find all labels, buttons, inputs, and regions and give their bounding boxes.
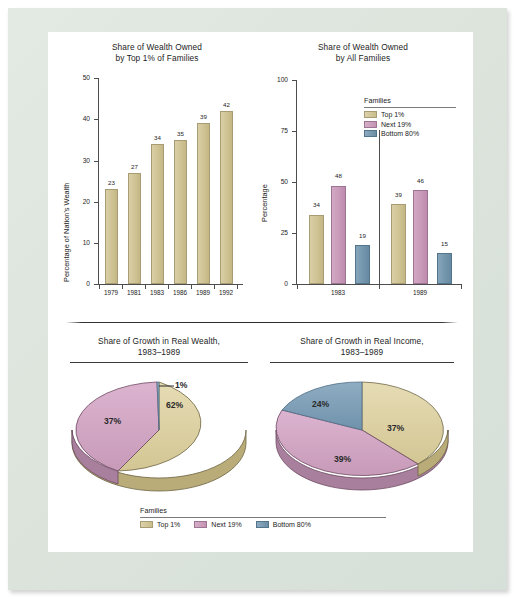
chart2-bar-1989-bottom80[interactable] [437, 253, 452, 284]
chart2-xlabel-1989: 1989 [404, 289, 436, 296]
pie-growth-real-income: 37% 39% 24% [266, 362, 458, 498]
pie2-label-37: 37% [387, 423, 404, 433]
bottom-legend-item-top1[interactable]: Top 1% [140, 521, 180, 528]
pie1-label-1: 1% [175, 380, 187, 390]
chart2-ytick-100 [292, 80, 296, 81]
chart2-xtick-start [297, 285, 298, 289]
chart2-legend-label-top1: Top 1% [381, 111, 404, 118]
pie2-svg [266, 362, 458, 498]
chart1-ytick-20 [94, 202, 98, 203]
legend-swatch-next19-icon [364, 121, 377, 128]
chart2-legend-label-next19: Next 19% [381, 121, 411, 128]
chart1-bar-1981[interactable] [128, 173, 141, 284]
chart1-value-1979: 23 [102, 179, 121, 186]
chart2-bar-1983-bottom80[interactable] [355, 245, 370, 284]
chart1-title-line1: Share of Wealth Owned [62, 42, 252, 53]
chart2-legend: Families Top 1% Next 19% Bottom 80% [364, 96, 456, 140]
bottom-legend-item-next19[interactable]: Next 19% [194, 521, 241, 528]
chart1-ytick-label-40: 40 [70, 115, 90, 122]
pie1-label-62: 62% [166, 400, 183, 410]
chart2-ytick-50 [292, 182, 296, 183]
legend-swatch-bottom80-icon [256, 521, 269, 528]
chart1-value-1981: 27 [125, 163, 144, 170]
chart1-ytick-10 [94, 243, 98, 244]
chart2-title-line2: by All Families [268, 53, 458, 64]
pie-growth-real-wealth: 62% 37% 1% [62, 362, 256, 498]
legend-swatch-top1-icon [364, 111, 377, 118]
chart1-ytick-label-10: 10 [70, 239, 90, 246]
chart-wealth-top1-percent: Share of Wealth Owned by Top 1% of Famil… [54, 42, 252, 310]
figure-root: Share of Wealth Owned by Top 1% of Famil… [0, 0, 515, 599]
legend-swatch-bottom80-icon [364, 130, 377, 137]
pie1-svg [62, 362, 256, 498]
chart1-ytick-label-20: 20 [70, 198, 90, 205]
chart1-bar-1979[interactable] [105, 189, 118, 284]
chart2-legend-label-bottom80: Bottom 80% [381, 130, 419, 137]
chart2-ytick-75 [292, 131, 296, 132]
chart2-bar-1989-next19[interactable] [413, 190, 428, 284]
chart2-ytick-0 [292, 284, 296, 285]
bottom-legend-label-top1: Top 1% [157, 521, 180, 528]
chart1-bar-1992[interactable] [220, 111, 233, 284]
chart2-ytick-label-75: 75 [268, 127, 288, 134]
chart2-value-1983-bottom80: 19 [352, 232, 373, 239]
chart1-value-1989: 39 [194, 113, 213, 120]
chart1-bar-1983[interactable] [151, 144, 164, 284]
pie2-label-24: 24% [312, 399, 329, 409]
chart2-xlabel-1983: 1983 [322, 289, 354, 296]
chart2-value-1989-next19: 46 [410, 177, 431, 184]
bottom-legend-label-next19: Next 19% [211, 521, 241, 528]
chart2-title-line1: Share of Wealth Owned [268, 42, 458, 53]
chart1-xlabel-1992: 1992 [210, 289, 242, 296]
bottom-legend-label-bottom80: Bottom 80% [273, 521, 311, 528]
pie1-title-line2: 1983–1989 [64, 347, 254, 358]
chart2-bar-1989-top1[interactable] [391, 204, 406, 284]
chart2-bar-1983-next19[interactable] [331, 186, 346, 284]
chart1-value-1986: 35 [171, 130, 190, 137]
chart1-ytick-label-50: 50 [70, 74, 90, 81]
bottom-legend-item-bottom80[interactable]: Bottom 80% [256, 521, 311, 528]
pie1-title-line1: Share of Growth in Real Wealth, [64, 336, 254, 347]
chart1-value-1983: 34 [148, 134, 167, 141]
chart2-ytick-25 [292, 233, 296, 234]
chart2-ytick-label-0: 0 [268, 280, 288, 287]
chart1-plot-area: 23 27 34 35 39 42 [99, 78, 243, 284]
chart2-value-1989-bottom80: 15 [434, 240, 455, 247]
chart2-ytick-label-25: 25 [268, 229, 288, 236]
chart2-value-1983-top1: 34 [306, 201, 327, 208]
chart2-value-1983-next19: 48 [328, 172, 349, 179]
chart1-bar-1986[interactable] [174, 140, 187, 284]
chart2-xtick-mid [379, 285, 380, 289]
chart2-legend-item-bottom80[interactable]: Bottom 80% [364, 130, 456, 137]
chart1-ytick-label-0: 0 [70, 280, 90, 287]
bottom-legend-title: Families [140, 506, 386, 518]
chart2-xtick-end [461, 285, 462, 289]
chart2-group-separator [379, 130, 380, 284]
chart1-ytick-50 [94, 78, 98, 79]
chart2-y-axis-title: Percentage [260, 184, 269, 222]
pie2-title-line2: 1983–1989 [264, 347, 460, 358]
chart1-ytick-0 [94, 284, 98, 285]
chart1-ytick-30 [94, 161, 98, 162]
figure-page: Share of Wealth Owned by Top 1% of Famil… [48, 32, 473, 552]
chart2-ytick-label-100: 100 [268, 76, 288, 83]
chart1-x-axis-line [98, 284, 243, 285]
legend-swatch-next19-icon [194, 521, 207, 528]
chart2-title: Share of Wealth Owned by All Families [268, 42, 458, 64]
legend-swatch-top1-icon [140, 521, 153, 528]
chart1-title-line2: by Top 1% of Families [62, 53, 252, 64]
bottom-legend-row: Top 1% Next 19% Bottom 80% [140, 521, 386, 531]
chart2-legend-item-top1[interactable]: Top 1% [364, 111, 456, 118]
chart-wealth-all-families: Share of Wealth Owned by All Families Pe… [254, 42, 470, 310]
chart2-bar-1983-top1[interactable] [309, 215, 324, 284]
pie2-title-line1: Share of Growth in Real Income, [264, 336, 460, 347]
chart2-legend-item-next19[interactable]: Next 19% [364, 121, 456, 128]
pie2-label-39: 39% [334, 454, 351, 464]
chart1-bar-1989[interactable] [197, 123, 210, 284]
pie2-title: Share of Growth in Real Income, 1983–198… [264, 336, 460, 363]
chart1-ytick-label-30: 30 [70, 157, 90, 164]
chart1-title: Share of Wealth Owned by Top 1% of Famil… [62, 42, 252, 64]
chart2-value-1989-top1: 39 [388, 191, 409, 198]
bottom-legend: Families Top 1% Next 19% Bottom 80% [140, 506, 386, 531]
chart1-ytick-40 [94, 119, 98, 120]
